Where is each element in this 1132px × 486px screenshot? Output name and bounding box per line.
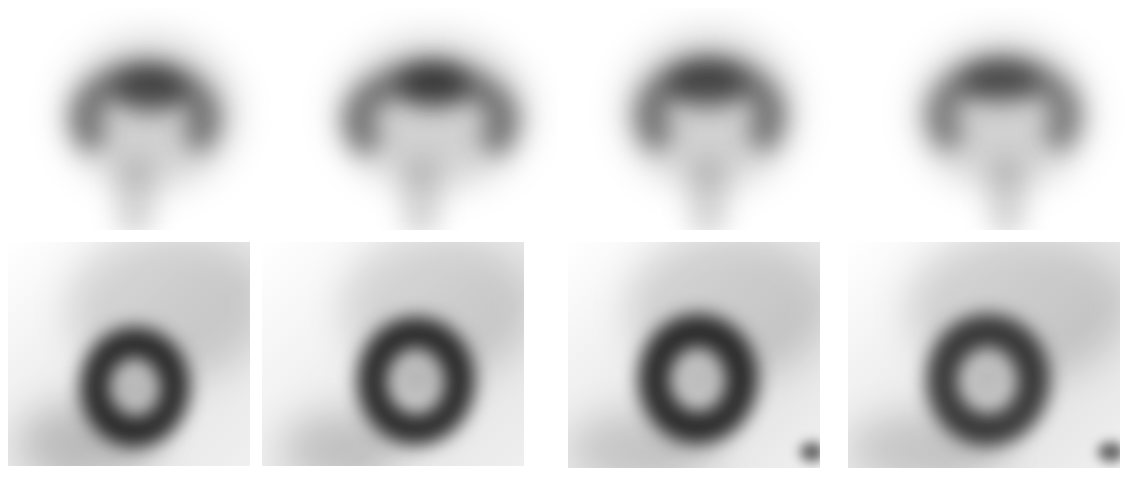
- corner-uptake: [800, 442, 820, 462]
- uptake-hotspot: [670, 63, 745, 108]
- septum-stalk: [988, 158, 1026, 230]
- septum-stalk: [115, 158, 155, 230]
- scan-panel-top-4: [848, 8, 1124, 230]
- scan-panel-bottom-2: [262, 242, 524, 466]
- scan-panel-bottom-4: [848, 242, 1120, 468]
- scan-panel-top-3: [570, 8, 832, 230]
- uptake-hotspot: [398, 63, 468, 108]
- scan-panel-top-2: [283, 8, 558, 230]
- corner-uptake: [1098, 442, 1120, 462]
- septum-stalk: [401, 158, 441, 230]
- ventricle-cavity: [966, 360, 1008, 406]
- scan-panel-top-1: [10, 8, 272, 230]
- uptake-hotspot: [115, 68, 185, 113]
- septum-stalk: [688, 158, 728, 230]
- ventricle-cavity: [678, 360, 718, 404]
- scan-panel-bottom-3: [568, 242, 820, 468]
- uptake-hotspot: [963, 63, 1038, 103]
- ventricle-cavity: [116, 367, 154, 409]
- scan-panel-bottom-1: [8, 242, 250, 466]
- ventricle-cavity: [396, 360, 436, 404]
